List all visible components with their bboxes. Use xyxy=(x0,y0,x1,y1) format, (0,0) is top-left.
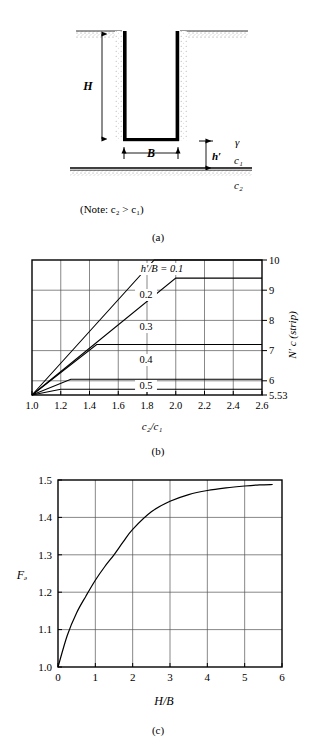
panel-c-chart: 0123456 1.01.11.21.31.41.5 H/B Fₔ (c) xyxy=(0,462,316,742)
panel-a-diagram: H B h′ γ c₁ c₂ (Note: c₂ > c₁) (a) xyxy=(0,0,316,250)
chart-nc-strip: 1.01.21.41.61.82.02.22.42.6 5.53678910 h… xyxy=(0,250,316,462)
svg-text:1.8: 1.8 xyxy=(140,400,153,411)
soil-layer-interface xyxy=(70,168,252,176)
panel-a-caption: (a) xyxy=(152,231,165,244)
svg-text:1.6: 1.6 xyxy=(112,400,125,411)
svg-text:1.0: 1.0 xyxy=(25,400,38,411)
chart-b-series-label: 0.3 xyxy=(139,321,152,332)
svg-text:1.4: 1.4 xyxy=(38,511,52,523)
label-h-prime: h′ xyxy=(212,150,221,162)
chart-c-x-tick-labels: 0123456 xyxy=(55,671,285,683)
dimension-h-prime: h′ xyxy=(199,141,221,168)
panel-a-note: (Note: c₂ > c₁) xyxy=(80,203,144,216)
label-c1: c₁ xyxy=(234,154,243,166)
svg-text:8: 8 xyxy=(269,315,274,326)
label-B: B xyxy=(146,146,155,160)
svg-text:1.2: 1.2 xyxy=(54,400,67,411)
svg-text:2: 2 xyxy=(130,671,136,683)
svg-text:4: 4 xyxy=(205,671,211,683)
panel-b-chart: 1.01.21.41.61.82.02.22.42.6 5.53678910 h… xyxy=(0,250,316,462)
chart-b-y-axis-label: N′ c (strip) xyxy=(286,311,299,360)
svg-text:1.5: 1.5 xyxy=(38,474,52,486)
chart-b-series-label: h′/B = 0.1 xyxy=(141,263,183,274)
label-gamma: γ xyxy=(235,136,240,148)
chart-b-x-tick-labels: 1.01.21.41.61.82.02.22.42.6 xyxy=(25,400,268,411)
svg-text:2.0: 2.0 xyxy=(169,400,182,411)
chart-b-series-label: 0.4 xyxy=(139,354,153,365)
chart-b-y-tick-labels: 5.53678910 xyxy=(269,255,287,401)
svg-text:1: 1 xyxy=(93,671,99,683)
svg-text:1.3: 1.3 xyxy=(38,549,52,561)
svg-text:9: 9 xyxy=(269,285,274,296)
svg-text:6: 6 xyxy=(269,375,274,386)
chart-c-x-axis-label: H/B xyxy=(153,694,174,708)
panel-b-caption: (b) xyxy=(152,445,165,458)
svg-text:6: 6 xyxy=(279,671,285,683)
dimension-H: H xyxy=(82,34,102,139)
svg-text:0: 0 xyxy=(55,671,61,683)
chart-b-series-label: 0.5 xyxy=(139,380,152,391)
svg-text:2.6: 2.6 xyxy=(255,400,268,411)
svg-text:1.4: 1.4 xyxy=(83,400,97,411)
chart-c-y-axis-label: Fₔ xyxy=(16,568,27,582)
chart-c-curve xyxy=(58,484,273,667)
panel-c-caption: (c) xyxy=(152,724,165,737)
svg-text:7: 7 xyxy=(269,345,274,356)
svg-text:5: 5 xyxy=(242,671,248,683)
svg-text:3: 3 xyxy=(167,671,173,683)
chart-c-y-tick-labels: 1.01.11.21.31.41.5 xyxy=(38,474,52,673)
svg-text:1.0: 1.0 xyxy=(38,661,52,673)
chart-b-x-axis-label: c₂/c₁ xyxy=(142,420,163,432)
chart-c-gridlines xyxy=(58,480,282,667)
svg-text:2.4: 2.4 xyxy=(227,400,241,411)
svg-text:1.2: 1.2 xyxy=(38,586,52,598)
chart-b-series-label: 0.2 xyxy=(139,289,152,300)
svg-text:2.2: 2.2 xyxy=(198,400,211,411)
svg-text:1.1: 1.1 xyxy=(38,623,52,635)
svg-text:5.53: 5.53 xyxy=(269,390,287,401)
excavation-cross-section: H B h′ γ c₁ c₂ (Note: c₂ > c₁) (a) xyxy=(0,0,316,250)
chart-depth-factor: 0123456 1.01.11.21.31.41.5 H/B Fₔ (c) xyxy=(0,462,316,742)
dimension-B: B xyxy=(124,146,178,160)
svg-text:10: 10 xyxy=(269,255,280,266)
label-H: H xyxy=(82,79,93,93)
chart-b-series-labels: h′/B = 0.10.20.30.40.5 xyxy=(133,263,192,392)
label-c2: c₂ xyxy=(234,179,243,191)
excavation-walls xyxy=(115,31,187,141)
